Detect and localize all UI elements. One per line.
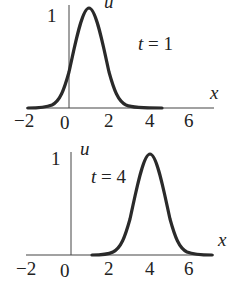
xtick-2: 2 bbox=[104, 258, 114, 279]
xtick-6: 6 bbox=[184, 110, 194, 131]
xtick-0: 0 bbox=[60, 112, 70, 133]
xlabel-x: x bbox=[209, 82, 219, 103]
xlabel-x: x bbox=[217, 229, 227, 250]
t-label: t bbox=[91, 166, 97, 187]
xtick-0: 0 bbox=[60, 260, 70, 281]
t-eq: = 4 bbox=[101, 166, 126, 187]
wave-plots: 1 u x t = 1 −2 0 2 4 6 1 u x t = 4 −2 0 … bbox=[0, 0, 244, 296]
xtick-neg2: −2 bbox=[16, 258, 36, 279]
ylabel-u: u bbox=[80, 138, 90, 159]
t-eq: = 1 bbox=[148, 33, 173, 54]
xtick-2: 2 bbox=[104, 110, 114, 131]
ylabel-u: u bbox=[104, 0, 114, 12]
xtick-4: 4 bbox=[145, 258, 155, 279]
xtick-neg2: −2 bbox=[14, 110, 34, 131]
plot-t1: 1 u x t = 1 −2 0 2 4 6 bbox=[14, 0, 219, 133]
ytick-1: 1 bbox=[51, 148, 61, 169]
plot-t4: 1 u x t = 4 −2 0 2 4 6 bbox=[16, 138, 227, 281]
xtick-4: 4 bbox=[145, 110, 155, 131]
t-label: t bbox=[138, 33, 144, 54]
xtick-6: 6 bbox=[184, 258, 194, 279]
ytick-1: 1 bbox=[47, 5, 57, 26]
